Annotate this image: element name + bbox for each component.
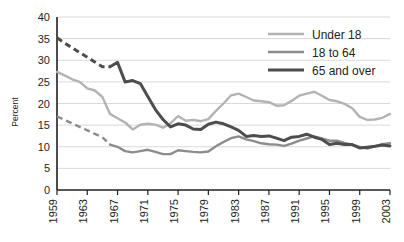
y-tick-label: 30: [38, 54, 50, 66]
x-tick-label: 1967: [108, 199, 120, 223]
y-tick-label: 0: [44, 184, 50, 196]
legend-label: 18 to 64: [312, 46, 356, 60]
x-tick-label: 1999: [350, 199, 362, 223]
x-tick-label: 1983: [229, 199, 241, 223]
y-tick-label: 15: [38, 119, 50, 131]
y-tick-label: 5: [44, 162, 50, 174]
poverty-rate-line-chart: 0510152025303540 19591963196719711975197…: [0, 0, 404, 242]
y-tick-label: 25: [38, 76, 50, 88]
x-tick-label: 1963: [77, 199, 89, 223]
x-tick-label: 1979: [198, 199, 210, 223]
x-tick-label: 1995: [319, 199, 331, 223]
y-tick-label: 40: [38, 11, 50, 23]
y-axis-title: Percent: [10, 97, 20, 127]
x-tick-label: 1991: [289, 199, 301, 223]
x-tick-label: 1971: [138, 199, 150, 223]
x-tick-label: 1987: [259, 199, 271, 223]
x-tick-label: 2003: [380, 199, 392, 223]
y-tick-label: 10: [38, 141, 50, 153]
legend-label: 65 and over: [312, 64, 375, 78]
chart-canvas: 0510152025303540 19591963196719711975197…: [0, 0, 404, 242]
y-tick-label: 35: [38, 33, 50, 45]
legend-label: Under 18: [312, 28, 362, 42]
x-tick-label: 1975: [168, 199, 180, 223]
x-tick-label: 1959: [47, 199, 59, 223]
y-tick-label: 20: [38, 98, 50, 110]
